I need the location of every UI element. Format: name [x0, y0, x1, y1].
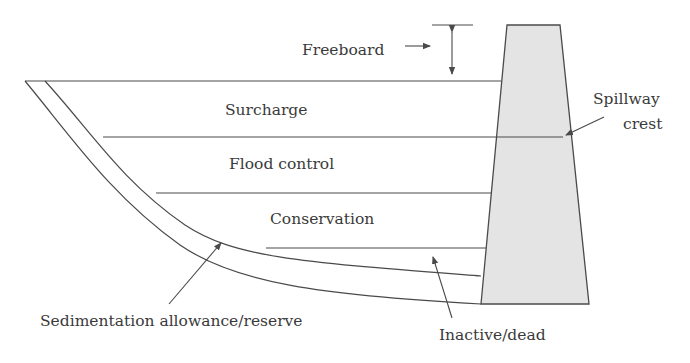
label-spillway: Spillway: [593, 92, 660, 108]
label-inactive: Inactive/dead: [439, 328, 546, 344]
label-freeboard: Freeboard: [302, 43, 384, 59]
sedimentation-pointer: [169, 243, 221, 304]
label-surcharge: Surcharge: [225, 103, 307, 119]
label-flood-control: Flood control: [229, 157, 334, 173]
label-crest: crest: [623, 117, 662, 133]
spillway-crest-pointer: [566, 117, 604, 135]
inactive-pointer: [433, 257, 452, 318]
reservoir-diagram: Freeboard Surcharge Flood control Conser…: [0, 0, 690, 363]
label-sedimentation: Sedimentation allowance/reserve: [40, 314, 303, 330]
label-conservation: Conservation: [270, 212, 374, 228]
dam-body: [481, 25, 589, 304]
